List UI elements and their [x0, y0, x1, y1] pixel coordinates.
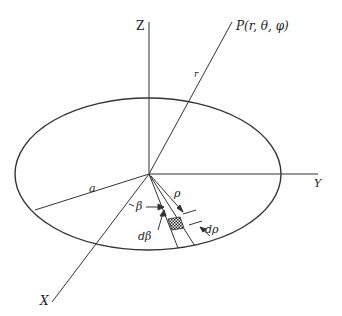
wedge-line-2 [149, 174, 195, 246]
d-beta-label: dβ [138, 231, 151, 242]
r-label: r [194, 70, 198, 79]
d-rho-label: dρ [205, 224, 219, 235]
x-axis-label: X [40, 295, 49, 307]
z-axis-label: Z [136, 20, 144, 32]
x-axis [52, 174, 149, 302]
disk-radius-label: a [89, 183, 96, 194]
point-label: P(r, θ, φ) [236, 20, 289, 32]
y-axis-label: Y [314, 178, 321, 189]
diagram-drawing [0, 0, 342, 316]
rho-label: ρ [174, 188, 180, 199]
beta-label: β [136, 201, 142, 212]
diagram-canvas: Z P(r, θ, φ) r Y a ρ β dβ dρ X [0, 0, 342, 316]
